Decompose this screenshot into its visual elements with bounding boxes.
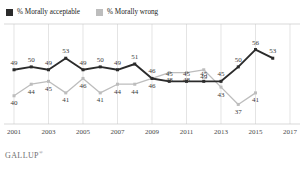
legend-swatch-acceptable xyxy=(6,9,13,16)
data-label: 49 xyxy=(80,59,88,67)
data-label: 37 xyxy=(235,108,243,116)
gallup-line-chart: % Morally acceptable % Morally wrong 404… xyxy=(0,0,304,169)
data-label: 46 xyxy=(149,82,157,90)
data-label: 45 xyxy=(166,70,174,78)
legend-label-wrong: % Morally wrong xyxy=(107,9,158,16)
x-axis-tick-label: 2011 xyxy=(180,128,194,136)
data-label: 49 xyxy=(114,59,122,67)
data-label: 49 xyxy=(11,59,19,67)
legend-label-acceptable: % Morally acceptable xyxy=(17,9,80,16)
x-axis-tick-label: 2005 xyxy=(76,128,90,136)
registered-mark-icon: ® xyxy=(39,150,43,155)
data-label: 56 xyxy=(252,39,260,47)
data-label: 45 xyxy=(183,70,191,78)
data-label: 45 xyxy=(200,70,208,78)
gallup-brand: GALLUP® xyxy=(5,150,43,160)
chart-plot-area: 404445414641444446484849433741 495049534… xyxy=(0,22,304,126)
x-axis-tick-label: 2007 xyxy=(111,128,125,136)
data-label: 41 xyxy=(62,96,70,104)
data-label: 43 xyxy=(218,91,226,99)
data-label: 53 xyxy=(269,47,277,55)
data-label: 46 xyxy=(149,67,157,75)
data-label: 41 xyxy=(97,96,105,104)
legend-item-wrong: % Morally wrong xyxy=(96,9,158,16)
data-label: 44 xyxy=(114,88,122,96)
chart-legend: % Morally acceptable % Morally wrong xyxy=(6,7,158,19)
chart-x-axis: 200120032005200720092011201320152017 xyxy=(0,128,304,142)
x-axis-tick-label: 2015 xyxy=(249,128,263,136)
x-axis-tick-label: 2001 xyxy=(7,128,21,136)
chart-svg: 404445414641444446484849433741 495049534… xyxy=(0,22,304,126)
gallup-brand-text: GALLUP xyxy=(5,151,39,160)
data-label: 50 xyxy=(28,56,36,64)
x-axis-tick-label: 2003 xyxy=(42,128,56,136)
data-label: 40 xyxy=(11,99,19,107)
x-axis-tick-label: 2013 xyxy=(214,128,228,136)
data-label: 44 xyxy=(131,88,139,96)
data-label: 45 xyxy=(218,70,226,78)
data-label: 53 xyxy=(62,47,70,55)
data-label: 41 xyxy=(252,96,260,104)
data-label: 51 xyxy=(131,53,139,61)
data-label: 50 xyxy=(97,56,105,64)
legend-item-acceptable: % Morally acceptable xyxy=(6,9,80,16)
data-label: 50 xyxy=(235,56,243,64)
legend-swatch-wrong xyxy=(96,9,103,16)
data-label: 44 xyxy=(28,88,36,96)
x-axis-tick-label: 2017 xyxy=(283,128,297,136)
data-label: 46 xyxy=(80,82,88,90)
data-label: 45 xyxy=(45,85,53,93)
x-axis-tick-label: 2009 xyxy=(145,128,159,136)
data-label: 49 xyxy=(45,59,53,67)
